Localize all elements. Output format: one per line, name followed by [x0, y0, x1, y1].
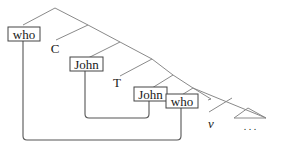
edge-vbar-left	[208, 99, 211, 100]
node-john-spec: John	[70, 57, 103, 72]
edge-tp-right	[120, 42, 152, 59]
t-head-label: T	[113, 75, 121, 90]
edge-root-right	[55, 8, 88, 25]
edge-cbar-left	[56, 25, 88, 40]
edge-root-left	[23, 8, 55, 25]
john-vp-label: John	[138, 87, 163, 102]
edge-cbar-right	[88, 25, 120, 42]
node-who-spec: who	[8, 27, 40, 42]
ellipsis-label: . . .	[244, 121, 257, 132]
c-head-label: C	[51, 41, 60, 56]
who-spec-label: who	[13, 27, 35, 42]
edge-tbar-right	[152, 59, 173, 75]
edge-vbar-to-v	[209, 98, 232, 112]
john-spec-label: John	[74, 57, 99, 72]
syntax-tree-diagram: who C John T John who v . . .	[0, 0, 284, 144]
edge-tbar-left	[120, 59, 152, 76]
node-who-vp: who	[166, 94, 198, 109]
edge-vp-right	[173, 75, 193, 88]
v-head-label: v	[208, 116, 214, 131]
who-vp-label: who	[171, 94, 193, 109]
edge-vbar-right	[193, 88, 266, 118]
node-john-vp: John	[134, 87, 167, 102]
